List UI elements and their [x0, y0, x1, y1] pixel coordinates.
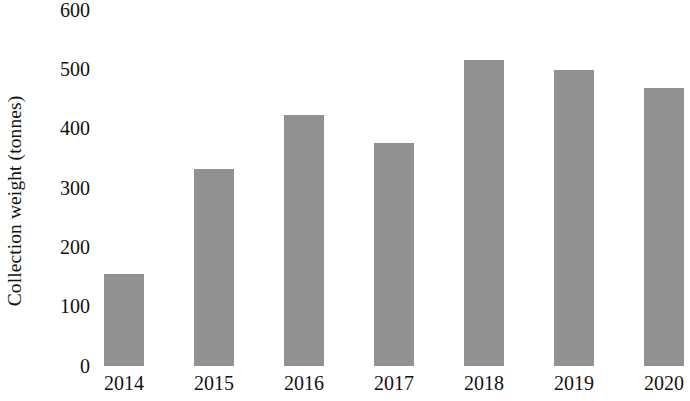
bar: [104, 274, 144, 366]
x-axis-tick-label: 2020: [619, 370, 690, 396]
y-axis-tick-labels: 6005004003002001000: [28, 0, 90, 401]
bar: [374, 143, 414, 365]
y-axis-tick-label: 100: [28, 296, 90, 316]
x-axis-tick-label: 2015: [169, 370, 259, 396]
x-axis-tick-label: 2016: [259, 370, 349, 396]
x-axis-tick-label: 2014: [79, 370, 169, 396]
bar: [464, 60, 504, 365]
y-axis-tick-label: 300: [28, 178, 90, 198]
y-axis-tick-label: 400: [28, 118, 90, 138]
y-axis-tick-label: 600: [28, 0, 90, 20]
bar: [644, 88, 684, 366]
x-axis-tick-labels: 2014201520162017201820192020: [96, 366, 690, 401]
bar: [194, 169, 234, 366]
bar-chart: Collection weight (tonnes) 6005004003002…: [0, 0, 690, 401]
plot-area: [96, 0, 690, 366]
x-axis-tick-label: 2018: [439, 370, 529, 396]
y-axis-title: Collection weight (tonnes): [0, 0, 30, 401]
x-axis-tick-label: 2019: [529, 370, 619, 396]
y-axis-tick-label: 200: [28, 237, 90, 257]
y-axis-title-label: Collection weight (tonnes): [4, 95, 26, 306]
bar: [554, 70, 594, 365]
bar: [284, 115, 324, 365]
x-axis-tick-label: 2017: [349, 370, 439, 396]
y-axis-tick-label: 500: [28, 59, 90, 79]
